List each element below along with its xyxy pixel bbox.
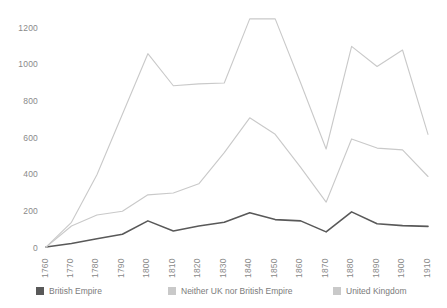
x-axis-tick-label: 1800 xyxy=(142,258,151,278)
legend-item-label: British Empire xyxy=(49,286,102,296)
x-axis-tick-label: 1780 xyxy=(91,258,100,278)
series-line xyxy=(46,19,428,247)
x-axis-tick-label: 1840 xyxy=(244,258,253,278)
series-line xyxy=(46,118,428,247)
y-axis-tick-label: 200 xyxy=(0,207,38,216)
y-axis-tick-label: 1200 xyxy=(0,24,38,33)
y-axis-tick-label: 0 xyxy=(0,244,38,253)
legend-swatch-icon xyxy=(36,287,44,295)
x-axis-tick-label: 1770 xyxy=(66,258,75,278)
x-axis-tick-label: 1870 xyxy=(321,258,330,278)
legend-item[interactable]: United Kingdom xyxy=(333,284,406,298)
y-axis-tick-label: 1000 xyxy=(0,60,38,69)
x-axis-tick-label: 1760 xyxy=(41,258,50,278)
x-axis-tick-label: 1790 xyxy=(117,258,126,278)
legend-item[interactable]: British Empire xyxy=(36,284,102,298)
legend-item-label: Neither UK nor British Empire xyxy=(181,286,292,296)
x-axis-tick-label: 1860 xyxy=(295,258,304,278)
y-axis-tick-label: 800 xyxy=(0,97,38,106)
x-axis-tick-label: 1850 xyxy=(270,258,279,278)
x-axis-tick-label: 1890 xyxy=(372,258,381,278)
x-axis-tick-label: 1830 xyxy=(219,258,228,278)
x-axis-tick-label: 1880 xyxy=(346,258,355,278)
y-axis-tick-label: 600 xyxy=(0,134,38,143)
x-axis-tick-label: 1820 xyxy=(193,258,202,278)
legend-item[interactable]: Neither UK nor British Empire xyxy=(168,284,292,298)
x-axis-tick-label: 1810 xyxy=(168,258,177,278)
legend-swatch-icon xyxy=(333,287,341,295)
x-axis-tick-label: 1900 xyxy=(397,258,406,278)
series-line xyxy=(46,212,428,247)
line-chart: 020040060080010001200 176017701780179018… xyxy=(0,0,447,308)
y-axis-tick-label: 400 xyxy=(0,170,38,179)
x-axis-tick-label: 1910 xyxy=(423,258,432,278)
chart-legend: British EmpireNeither UK nor British Emp… xyxy=(0,284,447,300)
legend-item-label: United Kingdom xyxy=(346,286,406,296)
legend-swatch-icon xyxy=(168,287,176,295)
